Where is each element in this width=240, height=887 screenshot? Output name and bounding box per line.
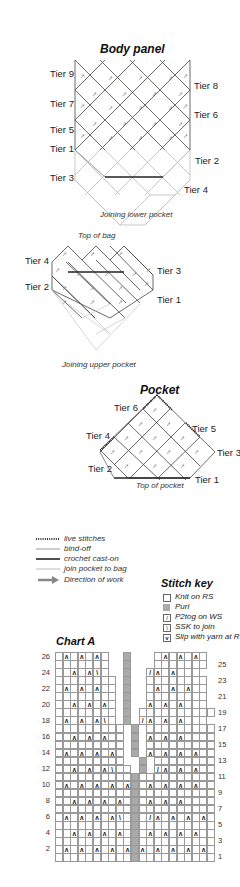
row-label: 20: [36, 700, 50, 709]
row-label: 18: [36, 716, 50, 725]
row-label: 26: [36, 652, 50, 661]
row-label: 6: [36, 812, 50, 821]
row-label: 19: [218, 708, 232, 717]
ssk-symbol-icon: \: [163, 624, 171, 632]
p2tog-symbol-icon: /: [163, 614, 171, 622]
legend-live-stitches: live stitches: [64, 534, 105, 543]
row-label: 12: [36, 764, 50, 773]
row-label: 13: [218, 756, 232, 765]
row-label: 8: [36, 796, 50, 805]
row-label: 21: [218, 692, 232, 701]
row-label: 11: [218, 772, 232, 781]
slip-symbol-icon: v: [163, 634, 171, 642]
row-label: 15: [218, 740, 232, 749]
row-label: 4: [36, 828, 50, 837]
stitch-key-title: Stitch key: [161, 577, 213, 589]
row-label: 10: [36, 780, 50, 789]
knit-cell: [207, 853, 215, 862]
row-label: 16: [36, 732, 50, 741]
purl-symbol-icon: [163, 604, 170, 611]
row-label: 17: [218, 724, 232, 733]
key-ssk: SSK to join: [175, 622, 215, 631]
row-label: 23: [218, 676, 232, 685]
legend-join-pocket: join pocket to bag: [64, 564, 127, 573]
row-label: 9: [218, 788, 232, 797]
legend-crochet-cast-on: crochet cast-on: [64, 554, 119, 563]
chart-a-title: Chart A: [56, 635, 95, 647]
knit-symbol-icon: [163, 594, 171, 602]
row-label: 5: [218, 820, 232, 829]
row-label: 2: [36, 844, 50, 853]
knit-cell: [207, 708, 215, 717]
knit-cell: [199, 660, 207, 669]
row-label: 25: [218, 660, 232, 669]
row-label: 1: [218, 852, 232, 861]
key-slip: Slip with yarn at RS: [175, 632, 240, 641]
row-label: 3: [218, 836, 232, 845]
key-knit: Knit on RS: [175, 592, 213, 601]
row-label: 7: [218, 804, 232, 813]
key-p2tog: P2tog on WS: [175, 612, 222, 621]
row-label: 22: [36, 684, 50, 693]
row-label: 24: [36, 668, 50, 677]
legend-bind-off: bind-off: [64, 544, 91, 553]
legend-direction-of-work: Direction of work: [64, 575, 124, 584]
row-label: 14: [36, 748, 50, 757]
key-purl: Purl: [175, 602, 189, 611]
